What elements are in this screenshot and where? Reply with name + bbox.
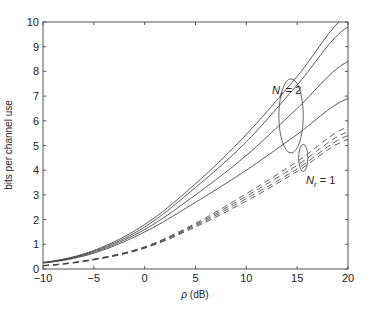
plot-border — [43, 22, 348, 269]
curve-group — [43, 15, 348, 266]
x-axis-label: ρ (dB) — [180, 289, 208, 300]
y-tick-label: 4 — [33, 164, 39, 176]
axis-ticks: −10−505101520012345678910 — [27, 16, 354, 284]
y-axis-label: bits per channel use — [3, 100, 14, 190]
y-tick-label: 2 — [33, 214, 39, 226]
x-tick-label: 20 — [342, 272, 354, 284]
nr1-curve — [43, 132, 348, 266]
nr1-label: Nr = 1 — [306, 174, 335, 189]
y-tick-label: 1 — [33, 238, 39, 250]
y-tick-label: 5 — [33, 140, 39, 152]
capacity-chart: −10−505101520012345678910 ρ (dB) bits pe… — [0, 0, 370, 309]
nr1-curve — [43, 127, 348, 266]
nr1-curve — [43, 136, 348, 266]
nr2-curve — [43, 99, 348, 264]
y-tick-label: 0 — [33, 263, 39, 275]
y-tick-label: 8 — [33, 65, 39, 77]
y-tick-label: 9 — [33, 41, 39, 53]
y-tick-label: 3 — [33, 189, 39, 201]
x-tick-label: 15 — [291, 272, 303, 284]
y-tick-label: 10 — [27, 16, 39, 28]
x-tick-label: 10 — [240, 272, 252, 284]
y-tick-label: 6 — [33, 115, 39, 127]
nr2-curve — [43, 15, 348, 263]
x-tick-label: 5 — [192, 272, 198, 284]
plot-frame — [43, 22, 348, 269]
x-tick-label: 0 — [142, 272, 148, 284]
y-tick-label: 7 — [33, 90, 39, 102]
x-tick-label: −5 — [88, 272, 101, 284]
